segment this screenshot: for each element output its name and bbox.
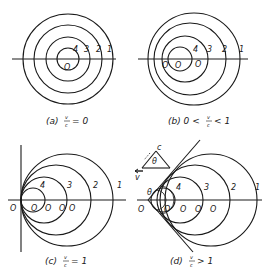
caption-d-relation: > 1	[197, 256, 213, 266]
label-3: 3	[84, 45, 89, 54]
label-3: 3	[207, 45, 212, 54]
panel-b-labels: 4 3 2 1 O O O (b) 0 < v c < 1	[162, 45, 244, 128]
label-1: 1	[107, 45, 112, 54]
label-O1: O	[195, 205, 201, 214]
label-1: 1	[117, 181, 122, 190]
inset-label-theta: θ	[152, 157, 157, 166]
panel-b	[138, 13, 248, 105]
label-4: 4	[40, 181, 45, 190]
label-O2: O	[180, 205, 186, 214]
label-O4: O	[138, 205, 144, 214]
caption-c-den: c	[64, 262, 67, 268]
label-O1: O	[59, 204, 65, 213]
label-4: 4	[73, 45, 78, 54]
label-O: O	[64, 63, 70, 72]
caption-d-num: v	[190, 254, 194, 260]
label-4: 4	[193, 45, 198, 54]
caption-a-num: v	[65, 114, 69, 120]
label-3: 3	[204, 183, 209, 192]
label-2: 2	[222, 45, 227, 54]
panel-a	[12, 14, 116, 104]
caption-b-relation: < 1	[214, 116, 230, 126]
caption-d-prefix: (d)	[170, 256, 183, 266]
label-O: O	[210, 205, 216, 214]
label-2: 2	[231, 183, 236, 192]
caption-b-prefix: (b) 0 <	[168, 116, 200, 126]
label-1: 1	[239, 45, 244, 54]
caption-a-relation: = 0	[72, 116, 88, 126]
label-O: O	[69, 204, 75, 213]
label-O3: O	[164, 205, 170, 214]
label-2: 2	[96, 45, 101, 54]
inset-label-v: v	[135, 173, 140, 182]
wavefront-diagram: 4 3 2 1 O (a) v c = 0 4 3 2 1 O O O (b) …	[0, 0, 269, 276]
caption-c-prefix: (c)	[45, 256, 57, 266]
caption-c-num: v	[64, 254, 68, 260]
inset-label-c: c	[157, 143, 162, 152]
label-1: 1	[255, 183, 260, 192]
label-O3: O	[31, 204, 37, 213]
label-2: 2	[93, 181, 98, 190]
panel-d-labels: 4 3 2 1 θ O O O O O c v θ (d) v c > 1	[135, 143, 260, 268]
label-3: 3	[67, 181, 72, 190]
label-O4prime: O	[10, 204, 16, 213]
label-O1: O	[175, 61, 181, 70]
caption-d-den: c	[190, 262, 193, 268]
caption-a-prefix: (a)	[46, 116, 59, 126]
label-4: 4	[176, 183, 181, 192]
mach-cone-upper	[148, 140, 200, 200]
panel-c	[8, 145, 126, 252]
label-O2: O	[45, 204, 51, 213]
label-O4: O	[162, 61, 168, 70]
caption-c-relation: = 1	[71, 256, 87, 266]
caption-a-den: c	[65, 122, 68, 128]
caption-b-den: c	[207, 122, 210, 128]
label-O: O	[195, 60, 201, 69]
label-theta: θ	[147, 188, 152, 197]
caption-b-num: v	[207, 114, 211, 120]
